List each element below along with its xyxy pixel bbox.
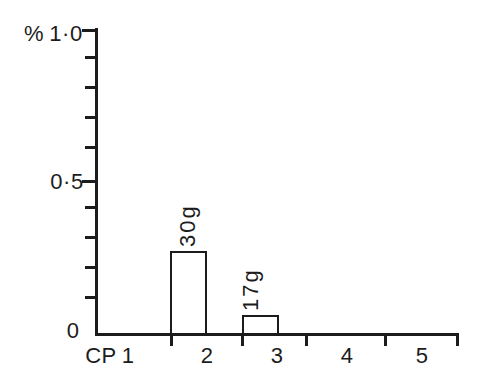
bar-category-2 [170,251,207,333]
bar-chart-figure: % 1·0 0·5 0 30g 17g CP 1 2 3 4 5 [0,0,490,382]
x-tick-label-4: 4 [341,345,354,367]
x-tick-label-1: 1 [122,345,135,367]
bar-annotation-30g: 30g [177,204,199,247]
y-axis-major-tick [82,180,96,183]
bar-category-3 [242,315,279,333]
bar-annotation-17g: 17g [240,268,262,311]
y-axis-unit-label: % [24,23,44,45]
x-axis-tick [384,334,387,346]
x-tick-label-5: 5 [416,345,429,367]
x-axis-title: CP [85,345,117,367]
x-axis-tick [305,334,308,346]
x-tick-label-2: 2 [201,345,214,367]
y-axis-minor-tick [85,296,96,299]
y-axis-major-tick [82,29,96,32]
y-tick-label-1-0: 1·0 [49,23,82,45]
y-tick-label-0: 0 [67,320,80,342]
y-axis-minor-tick [85,86,96,89]
y-axis-minor-tick [85,266,96,269]
x-axis-tick [456,334,459,346]
y-axis-minor-tick [85,206,96,209]
y-tick-label-0-5: 0·5 [50,171,83,193]
x-axis-tick [241,334,244,346]
y-axis-minor-tick [85,146,96,149]
y-axis-minor-tick [85,56,96,59]
x-axis-tick [170,334,173,346]
x-tick-label-3: 3 [271,345,284,367]
y-axis-minor-tick [85,236,96,239]
y-axis-minor-tick [85,116,96,119]
x-axis-line [95,333,459,336]
